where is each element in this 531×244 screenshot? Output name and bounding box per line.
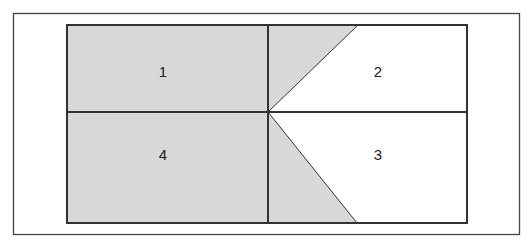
quadrant-diagram: 1 2 3 4 [0, 0, 531, 244]
region-label-4: 4 [159, 146, 167, 163]
region-label-3: 3 [374, 146, 382, 163]
region-label-2: 2 [374, 63, 382, 80]
shaded-left-half [67, 25, 268, 223]
region-label-1: 1 [159, 63, 167, 80]
